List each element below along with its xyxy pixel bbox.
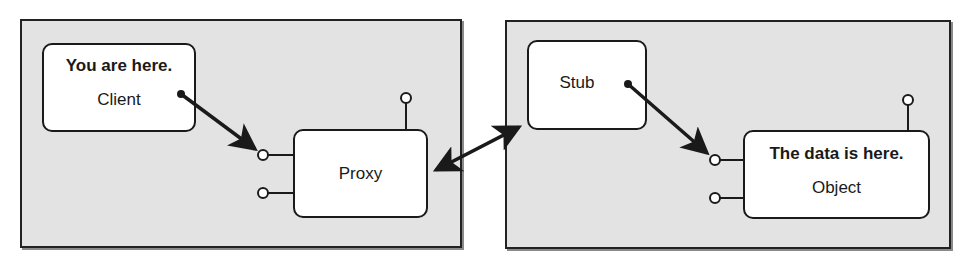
stub-to-object-arrow [624,80,707,153]
proxy-stub-network-arrow [436,127,519,170]
client-to-proxy-arrow [177,90,255,149]
object-interface-lollipops [710,95,913,203]
proxy-interface-lollipops [258,93,411,198]
connections-layer [0,0,975,264]
